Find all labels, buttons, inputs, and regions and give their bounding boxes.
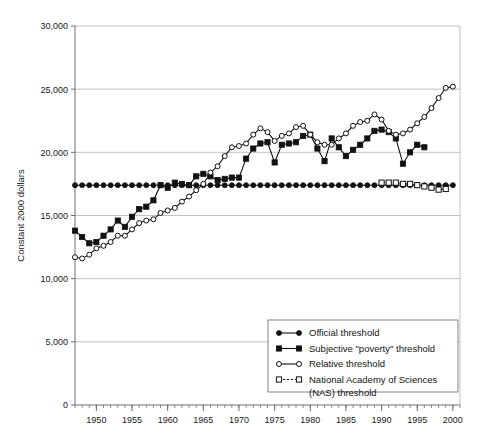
legend-marker-start-1 (276, 346, 281, 351)
series-marker-2-8 (130, 227, 135, 232)
series-marker-0-19 (208, 183, 213, 188)
series-marker-3-5 (415, 183, 420, 188)
series-marker-1-41 (365, 136, 370, 141)
series-marker-1-5 (108, 227, 113, 232)
series-marker-1-38 (343, 154, 348, 159)
series-marker-1-26 (258, 141, 263, 146)
series-marker-0-4 (101, 183, 106, 188)
series-marker-2-49 (422, 114, 427, 119)
series-marker-0-39 (351, 183, 356, 188)
series-marker-1-3 (94, 239, 99, 244)
series-marker-3-0 (379, 180, 384, 185)
series-marker-2-27 (265, 130, 270, 135)
series-marker-2-23 (236, 144, 241, 149)
series-marker-1-12 (158, 183, 163, 188)
chart-canvas: 05,00010,00015,00020,00025,00030,0001950… (0, 0, 486, 444)
series-marker-1-40 (358, 142, 363, 147)
legend-label-3: National Academy of Sciences (309, 374, 438, 385)
series-marker-1-31 (293, 140, 298, 145)
series-marker-0-35 (322, 183, 327, 188)
series-marker-0-5 (108, 183, 113, 188)
series-marker-0-38 (343, 183, 348, 188)
series-marker-1-1 (80, 234, 85, 239)
series-marker-0-25 (251, 183, 256, 188)
legend-label-0: Official threshold (309, 327, 380, 338)
y-tick-label-30000: 30,000 (40, 21, 68, 31)
series-marker-1-24 (244, 156, 249, 161)
series-marker-1-22 (229, 175, 234, 180)
series-marker-2-3 (94, 246, 99, 251)
series-marker-0-22 (229, 183, 234, 188)
series-marker-2-31 (294, 125, 299, 130)
y-axis-title: Constant 2000 dollars (15, 169, 26, 262)
series-marker-2-29 (279, 133, 284, 138)
y-tick-label-0: 0 (63, 400, 68, 410)
legend-marker-start-0 (277, 331, 282, 336)
series-marker-0-32 (301, 183, 306, 188)
series-marker-2-46 (400, 131, 405, 136)
series-marker-0-11 (151, 183, 156, 188)
series-marker-1-25 (251, 146, 256, 151)
x-tick-label-1965: 1965 (193, 415, 213, 425)
series-marker-0-17 (194, 183, 199, 188)
x-tick-label-1950: 1950 (86, 415, 106, 425)
legend-label-3-line2: (NAS) threshold (309, 387, 377, 398)
series-marker-0-34 (315, 183, 320, 188)
series-marker-2-13 (165, 208, 170, 213)
series-marker-0-28 (272, 183, 277, 188)
series-marker-2-35 (322, 142, 327, 147)
series-marker-2-22 (229, 145, 234, 150)
x-tick-label-1980: 1980 (300, 415, 320, 425)
x-tick-label-1960: 1960 (158, 415, 178, 425)
series-marker-2-36 (329, 142, 334, 147)
series-marker-2-10 (144, 218, 149, 223)
y-tick-label-20000: 20,000 (40, 148, 68, 158)
series-marker-1-37 (336, 145, 341, 150)
series-marker-1-15 (179, 181, 184, 186)
series-marker-2-19 (208, 170, 213, 175)
x-tick-label-1985: 1985 (336, 415, 356, 425)
series-marker-1-10 (144, 204, 149, 209)
series-marker-3-9 (443, 186, 448, 191)
series-marker-2-12 (158, 210, 163, 215)
series-marker-2-0 (73, 255, 78, 260)
series-marker-2-17 (194, 188, 199, 193)
series-marker-1-47 (407, 150, 412, 155)
series-marker-0-7 (122, 183, 127, 188)
series-marker-1-32 (301, 133, 306, 138)
series-marker-1-49 (422, 145, 427, 150)
series-marker-2-16 (187, 194, 192, 199)
legend-label-2: Relative threshold (309, 358, 385, 369)
series-marker-2-37 (336, 136, 341, 141)
series-marker-0-2 (87, 183, 92, 188)
series-marker-1-0 (72, 228, 77, 233)
series-marker-1-29 (279, 142, 284, 147)
series-marker-0-31 (294, 183, 299, 188)
series-marker-0-23 (236, 183, 241, 188)
series-marker-3-3 (400, 181, 405, 186)
series-marker-3-4 (407, 181, 412, 186)
series-marker-2-24 (244, 141, 249, 146)
x-tick-label-1975: 1975 (265, 415, 285, 425)
series-marker-2-30 (286, 131, 291, 136)
series-marker-2-52 (443, 85, 448, 90)
series-marker-1-7 (122, 224, 127, 229)
series-marker-2-4 (101, 243, 106, 248)
series-marker-0-36 (329, 183, 334, 188)
series-marker-2-18 (201, 181, 206, 186)
series-marker-0-10 (144, 183, 149, 188)
x-tick-label-1995: 1995 (407, 415, 427, 425)
y-tick-label-15000: 15,000 (40, 211, 68, 221)
legend-marker-end-1 (296, 346, 301, 351)
series-marker-1-6 (115, 218, 120, 223)
series-marker-2-9 (137, 221, 142, 226)
series-marker-0-27 (265, 183, 270, 188)
series-marker-1-43 (379, 127, 384, 132)
series-marker-2-50 (429, 106, 434, 111)
series-marker-0-6 (115, 183, 120, 188)
y-tick-label-10000: 10,000 (40, 274, 68, 284)
series-marker-1-18 (201, 171, 206, 176)
series-marker-2-26 (258, 126, 263, 131)
x-tick-label-1955: 1955 (122, 415, 142, 425)
series-marker-2-44 (386, 128, 391, 133)
